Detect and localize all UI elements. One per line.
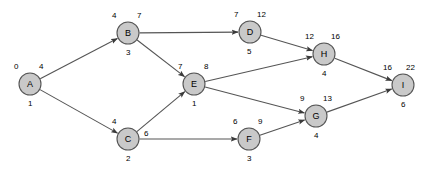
node-b[interactable]: B [117, 22, 139, 44]
node-g-label: G [312, 111, 319, 121]
node-c-latest: 6 [144, 129, 148, 138]
node-a-duration: 1 [28, 99, 32, 108]
node-e-latest: 8 [204, 62, 208, 71]
node-h-label: H [321, 49, 328, 59]
node-e-earliest: 7 [178, 62, 182, 71]
node-i-latest: 22 [406, 63, 415, 72]
node-f-earliest: 6 [233, 117, 237, 126]
node-e[interactable]: E [183, 73, 205, 95]
node-i-duration: 6 [401, 100, 405, 109]
node-b-duration: 3 [126, 48, 130, 57]
node-g[interactable]: G [305, 105, 327, 127]
edge-a-c [40, 90, 118, 133]
node-d-duration: 5 [247, 47, 251, 56]
edge-g-i [327, 89, 392, 112]
node-b-latest: 7 [137, 11, 141, 20]
node-i-earliest: 16 [383, 63, 392, 72]
edge-b-e [137, 40, 184, 77]
node-g-latest: 13 [323, 94, 332, 103]
node-c-earliest: 4 [112, 117, 116, 126]
node-a[interactable]: A [19, 73, 41, 95]
node-c-label: C [125, 134, 132, 144]
node-c[interactable]: C [117, 128, 139, 150]
node-d[interactable]: D [239, 21, 261, 43]
edges-layer [40, 32, 392, 139]
node-f[interactable]: F [238, 128, 260, 150]
node-a-latest: 4 [39, 62, 43, 71]
edge-f-g [260, 120, 305, 135]
node-g-earliest: 9 [300, 94, 304, 103]
node-f-label: F [246, 134, 252, 144]
node-i[interactable]: I [392, 74, 414, 96]
node-d-label: D [247, 27, 254, 37]
node-c-duration: 2 [126, 154, 130, 163]
node-d-latest: 12 [257, 10, 266, 19]
edge-b-d [139, 32, 238, 33]
node-d-earliest: 7 [234, 10, 238, 19]
node-e-label: E [191, 79, 197, 89]
node-a-label: A [27, 79, 33, 89]
edge-a-b [40, 39, 117, 79]
edge-e-h [205, 57, 312, 82]
node-i-label: I [402, 80, 405, 90]
edge-e-g [205, 87, 304, 113]
graph-canvas: ABCDEFGHI [0, 0, 427, 176]
node-h[interactable]: H [313, 43, 335, 65]
node-f-latest: 9 [258, 117, 262, 126]
edge-c-e [137, 92, 185, 132]
node-b-label: B [125, 28, 131, 38]
node-e-duration: 1 [192, 99, 196, 108]
node-h-duration: 4 [322, 69, 326, 78]
graph-diagram: ABCDEFGHI 041473462712578169391341216416… [0, 0, 427, 176]
node-b-earliest: 4 [112, 11, 116, 20]
node-f-duration: 3 [247, 154, 251, 163]
node-h-earliest: 12 [305, 32, 314, 41]
node-h-latest: 16 [331, 32, 340, 41]
nodes-layer: ABCDEFGHI [19, 21, 414, 150]
node-a-earliest: 0 [14, 62, 18, 71]
node-g-duration: 4 [314, 131, 318, 140]
